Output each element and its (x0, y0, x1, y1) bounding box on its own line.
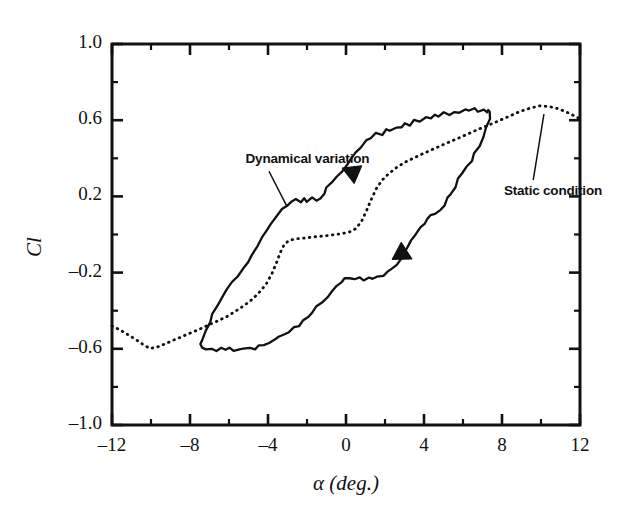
data-series (112, 106, 580, 351)
y-tick-label: –0.6 (40, 336, 102, 358)
y-tick-label: 1.0 (40, 31, 102, 53)
y-tick-label: 0.2 (40, 183, 102, 205)
y-tick-label: 0.6 (40, 107, 102, 129)
x-axis-title: α (deg.) (286, 471, 406, 496)
x-tick-label: –12 (82, 434, 142, 456)
annotation-static-condition: Static condition (504, 183, 602, 198)
y-axis-title: Cl (22, 237, 47, 257)
direction-arrow-markers (342, 166, 412, 259)
axes-frame (112, 44, 580, 425)
y-tick-label: –1.0 (40, 412, 102, 434)
y-tick-label: –0.2 (40, 260, 102, 282)
x-tick-label: 0 (316, 434, 376, 456)
x-tick-label: 8 (472, 434, 532, 456)
annotation-dynamical-variation: Dynamical variation (246, 151, 370, 166)
x-tick-label: –8 (160, 434, 220, 456)
x-tick-label: –4 (238, 434, 298, 456)
chart-figure: –12–8–404812 –1.0–0.6–0.20.20.61.0 α (de… (0, 0, 629, 515)
x-tick-label: 4 (394, 434, 454, 456)
x-tick-label: 12 (550, 434, 610, 456)
axis-ticks (112, 44, 580, 425)
